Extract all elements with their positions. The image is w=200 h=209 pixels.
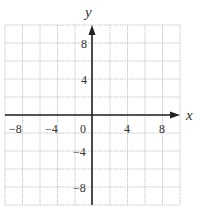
x-tick-label: 0 xyxy=(80,122,86,136)
x-tick-label: 8 xyxy=(159,122,165,136)
x-axis-arrow-icon xyxy=(170,112,180,119)
y-tick-label: 8 xyxy=(81,37,87,51)
x-tick-label: −4 xyxy=(45,122,58,136)
x-axis-label: x xyxy=(185,107,193,123)
y-tick-label: −8 xyxy=(73,181,86,195)
y-tick-label: −4 xyxy=(73,145,86,159)
y-axis-arrow-icon xyxy=(89,25,96,35)
x-tick-label: 4 xyxy=(124,122,130,136)
coordinate-plane: x y −8 −4 0 4 8 8 4 −4 −8 xyxy=(0,0,200,209)
x-tick-label: −8 xyxy=(9,122,22,136)
y-tick-label: 4 xyxy=(81,73,87,87)
y-axis-label: y xyxy=(83,4,92,20)
